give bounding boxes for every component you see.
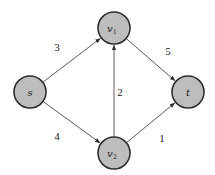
node-s: s [14, 76, 46, 108]
edge-weight-label: 1 [159, 132, 165, 144]
edge-s-to-v1 [43, 38, 101, 82]
edge-weight-label: 5 [165, 45, 171, 57]
edge-weight-label: 3 [54, 41, 60, 53]
edge-weight-label: 2 [117, 86, 123, 98]
edges-layer: 35241 [43, 38, 176, 144]
graph-diagram: 35241 sv1v2t [0, 0, 215, 175]
edge-v2-to-t [126, 103, 175, 143]
node-subscript: 2 [113, 153, 117, 161]
node-v1: v1 [98, 12, 130, 44]
node-label: s [27, 87, 32, 98]
node-subscript: 1 [113, 28, 117, 36]
edge-s-to-v2 [43, 101, 100, 143]
nodes-layer: sv1v2t [14, 12, 204, 169]
edge-weight-label: 4 [54, 130, 60, 142]
node-t: t [172, 76, 204, 108]
node-v2: v2 [98, 137, 130, 169]
